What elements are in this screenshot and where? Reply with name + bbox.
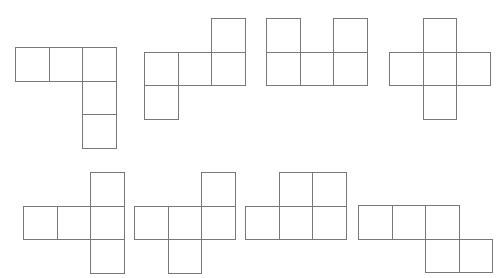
net-cell [266, 18, 301, 53]
net-cell [312, 206, 347, 241]
net-cell [423, 18, 458, 53]
net-cell [423, 85, 458, 120]
net-cell [211, 18, 246, 53]
figure-1-l-net [15, 47, 117, 149]
net-cell [312, 172, 347, 207]
figure-2-s-net [144, 18, 246, 120]
net-cell [300, 52, 335, 87]
net-cell [82, 81, 117, 116]
net-cell [425, 205, 460, 240]
net-cell [279, 172, 314, 207]
net-cell [144, 52, 179, 87]
net-cell [456, 52, 491, 87]
net-cell [245, 206, 280, 241]
figure-5-t-net [23, 172, 125, 274]
net-cell [389, 52, 424, 87]
net-cell [90, 239, 125, 274]
polyomino-net-canvas [0, 0, 499, 278]
net-cell [82, 47, 117, 82]
net-cell [425, 239, 460, 274]
net-cell [23, 206, 58, 241]
net-cell [333, 52, 368, 87]
net-cell [90, 206, 125, 241]
net-cell [279, 206, 314, 241]
net-cell [201, 172, 236, 207]
net-cell [333, 18, 368, 53]
figure-3-u-net [266, 18, 368, 86]
net-cell [15, 47, 50, 82]
net-cell [168, 206, 203, 241]
figure-6-z-net [134, 172, 236, 274]
figure-8-n-net [358, 205, 493, 273]
net-cell [82, 114, 117, 149]
net-cell [90, 172, 125, 207]
net-cell [423, 52, 458, 87]
net-cell [144, 85, 179, 120]
figure-7-p-net [245, 172, 347, 240]
net-cell [201, 206, 236, 241]
net-cell [358, 205, 393, 240]
net-cell [266, 52, 301, 87]
net-cell [178, 52, 213, 87]
net-cell [211, 52, 246, 87]
net-cell [459, 239, 494, 274]
figure-4-plus-net [389, 18, 491, 120]
net-cell [49, 47, 84, 82]
net-cell [57, 206, 92, 241]
net-cell [168, 239, 203, 274]
net-cell [134, 206, 169, 241]
net-cell [392, 205, 427, 240]
